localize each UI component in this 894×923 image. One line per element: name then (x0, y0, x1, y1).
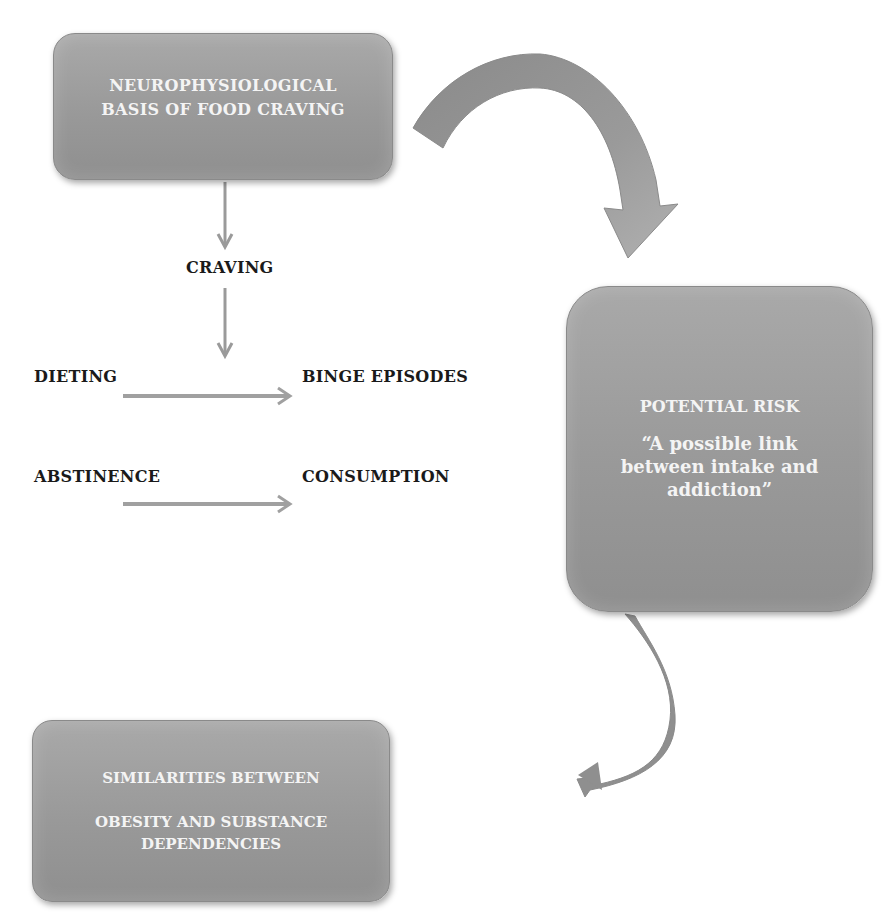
arrow-abstinence-to-consumption (123, 496, 290, 512)
label-dieting: DIETING (34, 367, 117, 386)
quote-line-1: “A possible link (621, 432, 819, 455)
box-similarities: SIMILARITIES BETWEEN OBESITY AND SUBSTAN… (32, 720, 390, 902)
potential-risk-quote: “A possible link between intake and addi… (621, 432, 819, 501)
box-bottom-line-1: SIMILARITIES BETWEEN (102, 767, 320, 789)
arrow-craving-down (218, 288, 232, 356)
box-potential-risk: POTENTIAL RISK “A possible link between … (566, 286, 873, 612)
label-binge-episodes: BINGE EPISODES (302, 367, 468, 386)
arrow-box-to-craving (218, 182, 232, 247)
potential-risk-title: POTENTIAL RISK (640, 397, 800, 416)
curved-arrow-top-to-risk (413, 54, 678, 258)
quote-line-2: between intake and (621, 455, 819, 478)
label-abstinence: ABSTINENCE (34, 467, 160, 486)
box-neurophysiological-basis: NEUROPHYSIOLOGICAL BASIS OF FOOD CRAVING (53, 33, 393, 180)
box-bottom-line-2: OBESITY AND SUBSTANCE DEPENDENCIES (33, 811, 389, 855)
quote-line-3: addiction” (621, 478, 819, 501)
curved-arrow-risk-to-similarities (577, 614, 675, 797)
label-craving: CRAVING (186, 258, 274, 277)
arrow-dieting-to-binge (123, 388, 290, 404)
box-top-line-1: NEUROPHYSIOLOGICAL (109, 74, 337, 98)
label-consumption: CONSUMPTION (302, 467, 450, 486)
box-top-line-2: BASIS OF FOOD CRAVING (101, 98, 344, 122)
